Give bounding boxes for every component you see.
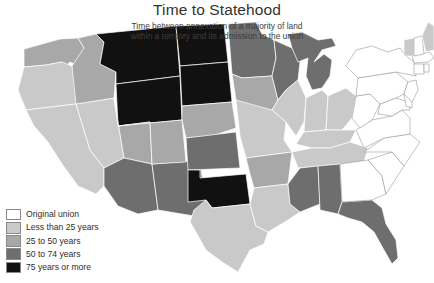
legend-label-50-to-74: 50 to 74 years [26,249,80,260]
state-FL [338,200,398,264]
state-OR [18,62,78,110]
legend-label-less-than-25: Less than 25 years [26,222,99,233]
legend-item-75-or-more: 75 years or more [6,261,99,274]
state-AR [246,152,292,188]
state-AL [318,164,342,214]
state-RI [424,64,429,72]
state-AZ [104,158,158,214]
legend-swatch-original-union [6,209,21,221]
state-ME [422,22,434,52]
legend-swatch-75-or-more [6,262,21,274]
state-MN [228,22,276,78]
legend-label-75-or-more: 75 years or more [26,262,91,273]
state-KS [186,132,240,170]
legend-item-less-than-25: Less than 25 years [6,221,99,234]
state-VT [404,38,414,56]
page-title: Time to Statehood [0,1,434,19]
legend-swatch-50-to-74 [6,248,21,260]
map-infographic: Time to Statehood Time between annexatio… [0,0,434,283]
map-legend: Original union Less than 25 years 25 to … [6,208,99,274]
legend-label-original-union: Original union [26,209,79,220]
state-CT [414,64,424,74]
legend-swatch-less-than-25 [6,222,21,234]
state-IN [304,90,328,132]
legend-item-50-to-74: 50 to 74 years [6,248,99,261]
state-MS [288,166,320,212]
legend-item-original-union: Original union [6,208,99,221]
state-SD [180,62,232,106]
legend-swatch-25-to-50 [6,235,21,247]
legend-label-25-to-50: 25 to 50 years [26,236,80,247]
state-ND [176,24,228,66]
state-OH [326,88,356,130]
state-WY [116,76,182,126]
state-NE [182,102,236,138]
legend-item-25-to-50: 25 to 50 years [6,234,99,247]
